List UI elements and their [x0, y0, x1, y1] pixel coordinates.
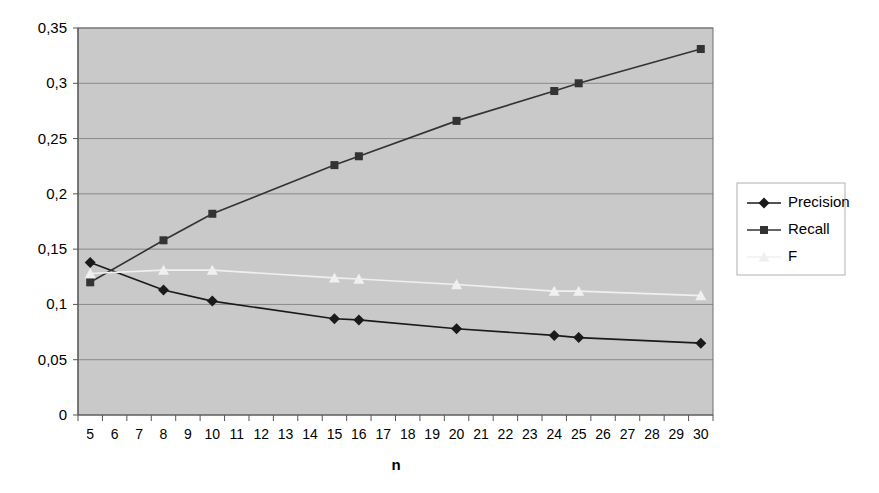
- x-axis-tick-label: 23: [522, 426, 538, 442]
- plot-area-background: [78, 28, 713, 415]
- x-axis-tick-label: 27: [620, 426, 636, 442]
- x-axis-tick-label: 24: [546, 426, 562, 442]
- x-axis-tick-label: 7: [135, 426, 143, 442]
- x-axis-tick-label: 17: [375, 426, 391, 442]
- x-axis-tick-label: 30: [693, 426, 709, 442]
- legend-label-recall: Recall: [788, 220, 830, 237]
- x-axis-tick-label: 16: [351, 426, 367, 442]
- data-point: [86, 278, 94, 286]
- data-point: [159, 236, 167, 244]
- data-point: [550, 87, 558, 95]
- line-chart: 00,050,10,150,20,250,30,35 5678910111213…: [0, 0, 879, 493]
- x-axis-tick-label: 8: [160, 426, 168, 442]
- x-axis-tick-label: 20: [449, 426, 465, 442]
- x-axis-tick-label: 14: [302, 426, 318, 442]
- y-axis-tick-label: 0,1: [46, 295, 67, 312]
- y-axis-tick-label: 0,3: [46, 74, 67, 91]
- y-axis-tick-label: 0,05: [38, 351, 67, 368]
- legend-label-f: F: [788, 247, 797, 264]
- x-axis-tick-label: 18: [400, 426, 416, 442]
- x-axis-tick-label: 19: [424, 426, 440, 442]
- chart-container: 00,050,10,150,20,250,30,35 5678910111213…: [0, 0, 879, 493]
- x-axis-tick-label: 25: [571, 426, 587, 442]
- data-point: [330, 161, 338, 169]
- x-axis-tick-label: 22: [498, 426, 514, 442]
- x-axis-tick-label: 15: [327, 426, 343, 442]
- x-axis-tick-label: 28: [644, 426, 660, 442]
- x-axis-tick-label: 6: [111, 426, 119, 442]
- x-axis-title: n: [391, 456, 400, 473]
- x-axis-tick-label: 9: [184, 426, 192, 442]
- data-point: [575, 79, 583, 87]
- data-point: [697, 45, 705, 53]
- data-point: [453, 117, 461, 125]
- x-axis-tick-label: 12: [253, 426, 269, 442]
- data-point: [355, 152, 363, 160]
- legend-label-precision: Precision: [788, 193, 850, 210]
- x-axis-tick-label: 10: [205, 426, 221, 442]
- x-axis-tick-label: 29: [669, 426, 685, 442]
- y-axis-tick-label: 0: [59, 406, 67, 423]
- x-axis-tick-label: 26: [595, 426, 611, 442]
- y-axis-tick-label: 0,2: [46, 185, 67, 202]
- data-point: [208, 210, 216, 218]
- x-axis-tick-label: 21: [473, 426, 489, 442]
- y-axis-tick-label: 0,35: [38, 19, 67, 36]
- x-axis-tick-label: 13: [278, 426, 294, 442]
- legend-marker-square-icon: [760, 226, 768, 234]
- x-axis-tick-label: 5: [86, 426, 94, 442]
- y-axis-tick-label: 0,15: [38, 240, 67, 257]
- x-axis-tick-label: 11: [229, 426, 244, 442]
- y-axis-tick-label: 0,25: [38, 130, 67, 147]
